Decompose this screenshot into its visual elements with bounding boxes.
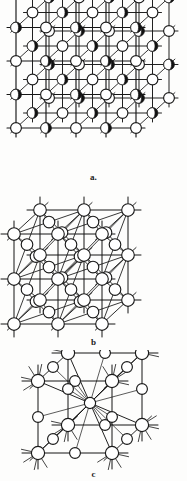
panel-c-svg — [0, 350, 187, 481]
atom-open — [100, 350, 111, 358]
atom-open — [52, 318, 65, 331]
atom-open — [84, 397, 95, 408]
atom-open — [87, 306, 99, 318]
atom-open — [57, 41, 68, 52]
panel-c-bcc — [0, 350, 187, 481]
atom-open — [65, 284, 77, 296]
atom-open — [52, 228, 65, 241]
panel-a-svg — [0, 0, 187, 185]
atom-open — [135, 350, 148, 360]
atom-highlight — [87, 108, 95, 119]
atom-open — [122, 362, 133, 373]
atom-open — [164, 26, 175, 37]
atom-highlight — [117, 7, 125, 18]
atom-open — [11, 123, 22, 134]
atom-highlight — [11, 22, 19, 33]
atom-open — [87, 7, 98, 18]
atom-open — [122, 204, 135, 217]
atom-open — [109, 239, 121, 251]
atom-open — [11, 56, 22, 67]
atom-open — [101, 89, 112, 100]
atom-open — [8, 273, 21, 286]
atom-open — [131, 123, 142, 134]
atom-open — [41, 22, 52, 33]
atom-open — [33, 412, 44, 423]
atom-open — [65, 239, 77, 251]
atom-open — [48, 362, 59, 373]
atom-highlight — [57, 74, 65, 85]
atom-open — [43, 306, 55, 318]
atom-open — [41, 89, 52, 100]
atom-open — [71, 56, 82, 67]
atom-highlight — [41, 56, 49, 67]
atom-open — [43, 216, 55, 228]
atom-open — [63, 384, 74, 395]
atom-open — [109, 284, 121, 296]
atom-open — [48, 434, 59, 445]
atom-open — [117, 108, 128, 119]
atom-open — [134, 0, 145, 3]
atom-open — [34, 249, 47, 262]
atom-highlight — [27, 108, 35, 119]
atom-open — [21, 239, 33, 251]
atom-open — [31, 374, 44, 387]
atom-open — [96, 228, 109, 241]
atom-open — [27, 74, 38, 85]
atom-highlight — [87, 41, 95, 52]
atom-open — [117, 41, 128, 52]
atom-open — [78, 294, 91, 307]
atom-open — [96, 273, 109, 286]
atom-open — [105, 374, 118, 387]
atom-open — [78, 204, 91, 217]
atom-open — [34, 204, 47, 217]
atom-open — [164, 93, 175, 104]
atom-highlight — [41, 123, 49, 134]
atom-open — [87, 216, 99, 228]
atom-open — [21, 284, 33, 296]
atom-open — [8, 318, 21, 331]
atom-highlight — [11, 89, 19, 100]
atom-highlight — [117, 74, 125, 85]
atom-highlight — [71, 89, 79, 100]
panel-c-label: c — [0, 469, 187, 479]
atom-open — [78, 249, 91, 262]
atom-open — [70, 448, 81, 459]
panel-b-fcc — [0, 185, 187, 350]
atom-open — [122, 294, 135, 307]
atom-open — [61, 418, 74, 431]
atom-open — [34, 294, 47, 307]
atom-highlight — [131, 89, 139, 100]
atom-open — [43, 261, 55, 273]
atom-open — [87, 74, 98, 85]
atom-open — [122, 249, 135, 262]
panel-b-label: b — [0, 337, 187, 347]
atom-open — [135, 418, 148, 431]
atom-open — [131, 56, 142, 67]
atom-open — [147, 7, 158, 18]
atom-open — [122, 434, 133, 445]
atom-highlight — [71, 22, 79, 33]
atom-highlight — [57, 7, 65, 18]
atom-highlight — [27, 41, 35, 52]
atom-highlight — [147, 108, 155, 119]
atom-open — [71, 123, 82, 134]
atom-highlight — [147, 41, 155, 52]
atom-open — [105, 446, 118, 459]
atom-open — [61, 350, 74, 360]
atom-open — [74, 0, 85, 3]
atom-open — [57, 108, 68, 119]
atom-highlight — [101, 56, 109, 67]
atom-open — [27, 7, 38, 18]
atom-highlight — [101, 123, 109, 134]
panel-a-label: a. — [0, 172, 187, 182]
figure-root: a. b c — [0, 0, 187, 481]
atom-open — [96, 318, 109, 331]
atom-open — [147, 74, 158, 85]
atom-open — [137, 384, 148, 395]
atom-open — [31, 446, 44, 459]
panel-a-rocksalt — [0, 0, 187, 185]
atom-open — [52, 273, 65, 286]
atom-open — [87, 261, 99, 273]
panel-b-svg — [0, 185, 187, 350]
atom-highlight — [164, 59, 172, 70]
